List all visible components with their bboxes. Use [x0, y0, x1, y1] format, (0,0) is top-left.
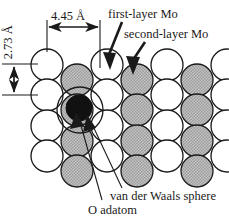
label-o-adatom: O adatom: [88, 204, 137, 217]
first-layer-atom: [91, 79, 123, 111]
first-layer-atom: [151, 49, 183, 81]
label-van-der-waals-sphere: van der Waals sphere: [110, 190, 216, 203]
first-layer-atom: [211, 140, 229, 172]
second-layer-atom: [181, 64, 213, 96]
first-layer-atom: [31, 110, 63, 142]
second-layer-atom: [121, 155, 153, 187]
second-layer-atom-group: [61, 64, 213, 187]
second-layer-atom: [121, 94, 153, 126]
first-layer-atom: [211, 110, 229, 142]
first-layer-atom: [211, 49, 229, 81]
second-layer-atom: [181, 155, 213, 187]
label-first-layer-mo: first-layer Mo: [108, 8, 178, 21]
dimension-label-horizontal: 4.45 Å: [51, 10, 85, 23]
second-layer-atom: [61, 155, 93, 187]
first-layer-atom: [211, 79, 229, 111]
second-layer-atom: [121, 125, 153, 157]
first-layer-atom: [31, 140, 63, 172]
label-second-layer-mo: second-layer Mo: [124, 28, 208, 41]
second-layer-atom: [121, 64, 153, 96]
first-layer-atom: [151, 79, 183, 111]
dimension-label-vertical: 2.73 Å: [2, 25, 15, 59]
first-layer-atom: [151, 110, 183, 142]
second-layer-atom: [181, 94, 213, 126]
second-layer-atom: [181, 125, 213, 157]
surface-structure-figure: 4.45 Å 2.73 Å first-layer Mo second-laye…: [0, 0, 229, 220]
first-layer-atom: [31, 49, 63, 81]
first-layer-atom: [151, 140, 183, 172]
